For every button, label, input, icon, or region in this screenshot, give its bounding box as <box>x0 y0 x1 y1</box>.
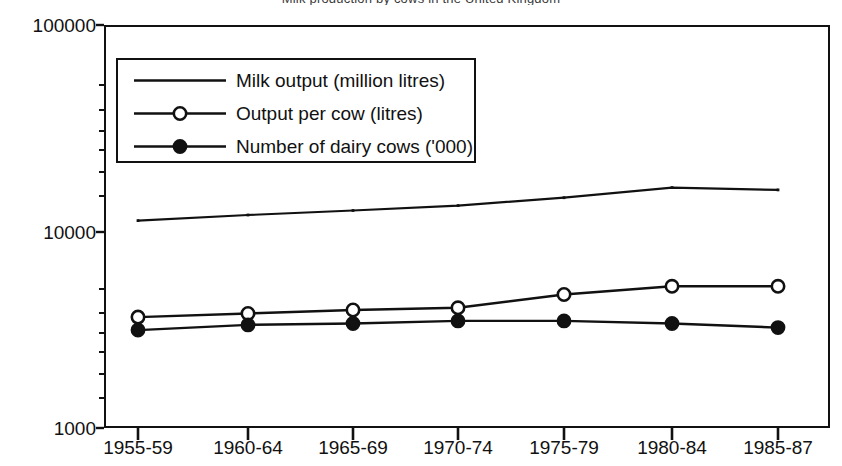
x-axis-label-1970-74: 1970-74 <box>398 437 518 459</box>
legend-entry-milk-output: Milk output (million litres) <box>118 67 474 94</box>
x-axis-label-1965-69: 1965-69 <box>293 437 413 459</box>
data-point-marker <box>666 280 678 292</box>
y-axis-label-100000: 100000 <box>0 15 96 37</box>
legend-sample-line-plain <box>132 67 228 94</box>
data-point-marker <box>666 317 679 330</box>
data-point <box>777 189 780 192</box>
legend-label-dairy-cows: Number of dairy cows ('000) <box>236 133 473 160</box>
data-point-marker <box>347 304 359 316</box>
data-point <box>457 204 460 207</box>
data-point-marker <box>132 311 144 323</box>
y-axis-label-10000: 10000 <box>0 222 96 244</box>
legend-sample-filled-circle <box>132 133 228 160</box>
data-point-marker <box>772 280 784 292</box>
x-axis-label-1985-87: 1985-87 <box>718 437 838 459</box>
x-axis-label-1955-59: 1955-59 <box>78 437 198 459</box>
data-point-marker <box>452 315 465 328</box>
chart-legend: Milk output (million litres) Output per … <box>116 58 476 163</box>
data-point <box>352 209 355 212</box>
data-point <box>247 214 250 217</box>
data-point-marker <box>558 315 571 328</box>
x-axis-label-1980-84: 1980-84 <box>612 437 732 459</box>
legend-entry-output-per-cow: Output per cow (litres) <box>118 100 474 127</box>
data-point-marker <box>772 321 785 334</box>
chart-figure: Milk production by cows in the United Ki… <box>0 0 842 466</box>
x-axis-label-1960-64: 1960-64 <box>188 437 308 459</box>
legend-label-output-per-cow: Output per cow (litres) <box>236 100 423 127</box>
legend-entry-dairy-cows: Number of dairy cows ('000) <box>118 133 474 160</box>
data-point-marker <box>132 324 145 337</box>
legend-label-milk-output: Milk output (million litres) <box>236 67 445 94</box>
x-axis-label-1975-79: 1975-79 <box>504 437 624 459</box>
chart-title-clipped: Milk production by cows in the United Ki… <box>0 0 842 5</box>
data-point-marker <box>347 317 360 330</box>
data-point-marker <box>452 302 464 314</box>
data-point-marker <box>242 319 255 332</box>
data-point <box>137 219 140 222</box>
series-line-milk-output-million-litres <box>138 188 778 221</box>
data-point <box>563 196 566 199</box>
data-point-marker <box>558 288 570 300</box>
legend-sample-open-circle <box>132 100 228 127</box>
data-point <box>671 186 674 189</box>
